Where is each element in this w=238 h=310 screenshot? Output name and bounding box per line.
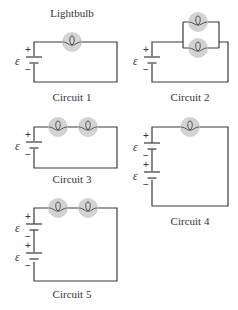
circuit-3: + − ε Circuit 3 xyxy=(15,118,117,186)
circuit-4-label: Circuit 4 xyxy=(171,215,210,227)
minus-sign: − xyxy=(25,149,31,160)
emf-symbol: ε xyxy=(15,54,20,68)
plus-sign: + xyxy=(143,159,149,170)
plus-sign: + xyxy=(143,130,149,141)
lightbulb-icon xyxy=(189,13,208,32)
plus-sign: + xyxy=(25,240,31,251)
battery-icon xyxy=(26,253,42,259)
battery-icon xyxy=(144,143,160,149)
circuit-4: + − ε + − ε Circuit 4 xyxy=(133,118,228,228)
minus-sign: − xyxy=(143,179,149,190)
circuit-3-label: Circuit 3 xyxy=(53,173,92,185)
emf-symbol: ε xyxy=(133,169,138,183)
circuit-2: + − ε Circuit 2 xyxy=(133,13,228,104)
lightbulb-icon xyxy=(79,118,98,137)
lightbulb-icon xyxy=(189,39,208,58)
minus-sign: − xyxy=(25,260,31,271)
battery-icon xyxy=(144,57,160,63)
emf-symbol: ε xyxy=(15,221,20,235)
battery-icon xyxy=(144,172,160,178)
plus-sign: + xyxy=(143,44,149,55)
minus-sign: − xyxy=(143,64,149,75)
lightbulb-icon xyxy=(63,33,82,52)
battery-icon xyxy=(26,142,42,148)
circuit-1-label: Circuit 1 xyxy=(53,91,92,103)
lightbulb-label: Lightbulb xyxy=(50,7,94,19)
circuit-diagram-figure: Lightbulb + − ε Circuit 1 + − ε Circuit … xyxy=(0,0,238,310)
battery-icon xyxy=(26,57,42,63)
circuit-5-label: Circuit 5 xyxy=(53,288,92,300)
emf-symbol: ε xyxy=(15,250,20,264)
circuit-2-label: Circuit 2 xyxy=(171,91,210,103)
emf-symbol: ε xyxy=(133,140,138,154)
plus-sign: + xyxy=(25,129,31,140)
battery-icon xyxy=(26,224,42,230)
minus-sign: − xyxy=(25,64,31,75)
plus-sign: + xyxy=(25,44,31,55)
lightbulb-icon xyxy=(79,199,98,218)
circuit-5: + − ε + − ε Circuit 5 xyxy=(15,199,117,301)
emf-symbol: ε xyxy=(15,139,20,153)
lightbulb-icon xyxy=(181,118,200,137)
emf-symbol: ε xyxy=(133,54,138,68)
lightbulb-icon xyxy=(49,199,68,218)
lightbulb-icon xyxy=(49,118,68,137)
plus-sign: + xyxy=(25,211,31,222)
circuit-1: Lightbulb + − ε Circuit 1 xyxy=(15,7,117,103)
